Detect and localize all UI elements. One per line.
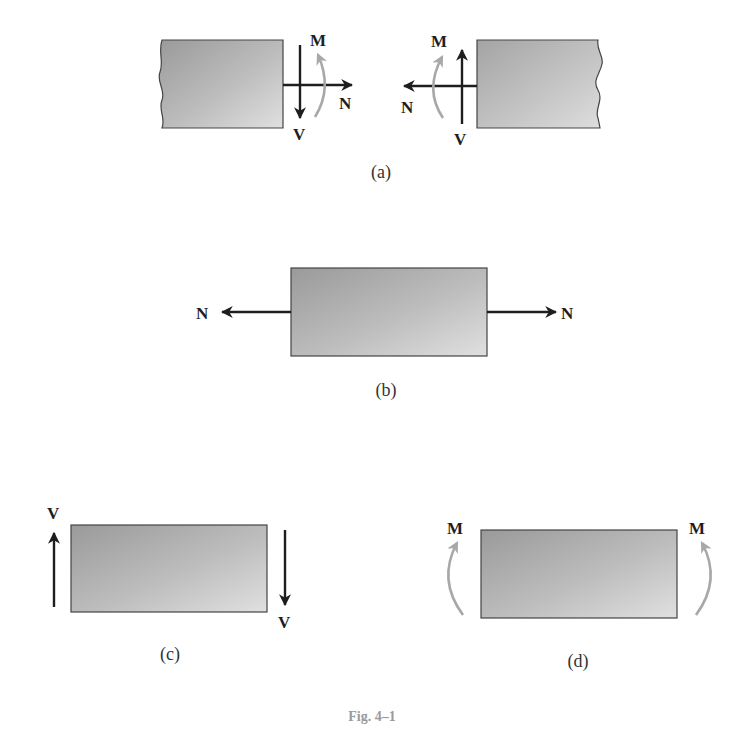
label-normal-left: N — [196, 304, 209, 323]
member-block — [481, 530, 677, 618]
label-shear: V — [293, 125, 306, 144]
member-block — [71, 525, 267, 612]
panel-caption: (a) — [371, 162, 391, 183]
panel-d: M M (d) — [447, 519, 711, 672]
internal-loadings-figure: M N V M N V (a) N N (b) V V (c) M M (d — [0, 0, 749, 751]
panel-caption: (b) — [376, 380, 397, 401]
label-moment: M — [431, 32, 447, 51]
label-normal: N — [401, 98, 414, 117]
panel-caption: (c) — [160, 644, 180, 665]
member-block — [291, 268, 487, 356]
figure-caption: Fig. 4–1 — [348, 709, 395, 724]
moment-arc-left-icon — [448, 543, 463, 615]
panel-a: M N V M N V (a) — [159, 31, 602, 183]
label-normal: N — [339, 94, 352, 113]
label-shear-left: V — [47, 504, 60, 523]
label-shear-right: V — [278, 613, 291, 632]
moment-arc-cw-icon — [433, 57, 443, 118]
label-moment: M — [310, 31, 326, 50]
label-moment-left: M — [447, 519, 463, 538]
label-shear: V — [454, 130, 467, 149]
left-segment-block — [159, 40, 283, 128]
label-moment-right: M — [689, 519, 705, 538]
panel-c: V V (c) — [47, 504, 291, 665]
panel-b: N N (b) — [196, 268, 574, 401]
moment-arc-right-icon — [696, 543, 711, 615]
label-normal-right: N — [561, 304, 574, 323]
panel-caption: (d) — [568, 651, 589, 672]
right-segment-block — [477, 40, 602, 128]
